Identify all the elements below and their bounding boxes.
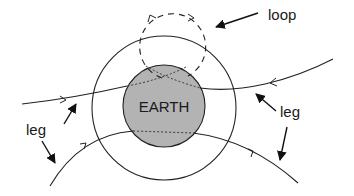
- lower-leg-arrow-right: [248, 149, 253, 157]
- earth-loop-diagram: EARTH loop leg leg: [0, 0, 354, 196]
- earth-label: EARTH: [139, 98, 190, 115]
- right-leg-pointer-up-arrow: [256, 94, 276, 111]
- loop-label: loop: [268, 6, 296, 23]
- lower-leg-left-path: [50, 131, 133, 186]
- lower-leg-right-path: [193, 133, 298, 183]
- left-leg-pointer-down-arrow: [42, 141, 55, 163]
- loop-arrowhead-right: [188, 14, 194, 21]
- upper-leg-arrow-left: [60, 96, 66, 103]
- loop-pointer-arrow: [216, 13, 258, 27]
- leg-label-left: leg: [26, 121, 46, 138]
- upper-leg-left-path: [22, 86, 127, 104]
- left-leg-pointer-up-arrow: [64, 104, 76, 124]
- right-leg-pointer-down-arrow: [280, 127, 287, 160]
- leg-label-right: leg: [280, 103, 300, 120]
